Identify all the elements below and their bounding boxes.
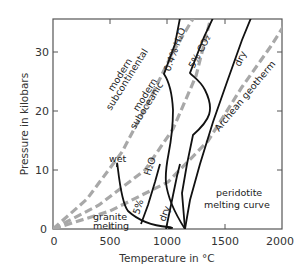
- label-dry-peridotite: dry: [232, 49, 249, 68]
- y-tick-20: 20: [35, 105, 49, 118]
- label-melting: melting: [93, 220, 129, 231]
- label-melting-curve: melting curve: [204, 199, 270, 210]
- y-tick-10: 10: [35, 164, 49, 177]
- x-tick-1500: 1500: [211, 235, 239, 248]
- x-tick-500: 500: [100, 235, 121, 248]
- x-tick-0: 0: [51, 235, 58, 248]
- y-tick-0: 0: [40, 223, 47, 236]
- label-wet: wet: [109, 153, 127, 164]
- label-peridotite: peridotite: [216, 187, 262, 198]
- y-tick-30: 30: [35, 46, 49, 59]
- label-h2o: H₂O: [141, 156, 157, 177]
- label-0.4pct-h2o: 0.4% H₂O: [162, 26, 188, 73]
- x-axis-label: Temperature in °C: [118, 252, 214, 264]
- y-axis-label: Pressure in kilobars: [18, 73, 30, 175]
- phase-diagram: 0 10 20 30 Pressure in kilobars 0 500 10…: [0, 0, 302, 274]
- x-tick-1000: 1000: [153, 235, 181, 248]
- x-tick-2000: 2000: [266, 235, 294, 248]
